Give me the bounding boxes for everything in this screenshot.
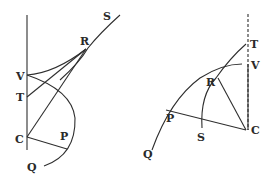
left-label-q: Q bbox=[27, 161, 37, 174]
right-line-pc bbox=[166, 110, 246, 130]
left-label-c: C bbox=[15, 133, 24, 146]
left-label-s: S bbox=[103, 10, 111, 23]
right-label-q: Q bbox=[143, 148, 153, 161]
left-label-r: R bbox=[80, 35, 90, 48]
left-line-cr bbox=[27, 49, 86, 137]
right-label-c: C bbox=[251, 124, 260, 137]
left-arc-vq bbox=[27, 75, 75, 166]
right-figure: T V R P C S Q bbox=[143, 14, 260, 161]
left-curve-s bbox=[60, 15, 120, 80]
diagram-canvas: S R V T C P Q T V R P C S Q bbox=[0, 0, 269, 179]
left-label-v: V bbox=[15, 70, 25, 83]
right-label-p: P bbox=[166, 112, 174, 125]
right-label-s: S bbox=[197, 131, 205, 144]
left-figure: S R V T C P Q bbox=[15, 10, 120, 174]
left-label-p: P bbox=[60, 130, 68, 143]
right-label-t: T bbox=[250, 38, 259, 51]
right-label-v: V bbox=[250, 59, 260, 72]
left-label-t: T bbox=[16, 91, 25, 104]
right-line-rc bbox=[218, 78, 246, 130]
right-label-r: R bbox=[206, 76, 216, 89]
